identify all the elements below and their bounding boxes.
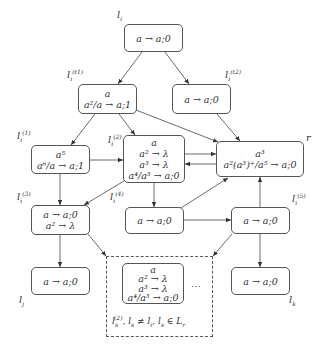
node-t2-rule: a → a;0 — [184, 94, 219, 105]
node-l1-rule: a⁶/a → a;1 — [37, 160, 84, 171]
node-l5: a → a;0 — [231, 207, 290, 234]
label-t1: li(t1) — [67, 68, 83, 82]
label-t2: li(t2) — [225, 68, 241, 82]
node-li-rule: a → a;0 — [136, 33, 171, 44]
label-l4: li(4) — [110, 190, 124, 204]
label-lj: lj — [19, 294, 24, 307]
node-l1-spike: a⁵ — [56, 149, 65, 160]
node-lj-rule: a → a;0 — [43, 276, 78, 287]
label-l1: li(1) — [17, 129, 31, 143]
node-l3: a → a;0 a² → λ — [31, 205, 90, 235]
node-l3-rule-1: a → a;0 — [43, 209, 78, 220]
node-l4-rule: a → a;0 — [137, 215, 172, 226]
edge-l3-group — [88, 234, 106, 256]
node-lj: a → a;0 — [31, 267, 90, 295]
node-lk-rule: a → a;0 — [243, 276, 278, 287]
label-l5: li(5) — [292, 192, 306, 206]
node-l5-rule: a → a;0 — [243, 215, 278, 226]
node-l4: a → a;0 — [125, 207, 184, 234]
ellipsis: … — [191, 278, 201, 289]
label-l2: li(2) — [108, 133, 122, 147]
label-li: li — [117, 9, 122, 22]
node-l2: a a² → λ a³ → λ a⁴/a³ → a;0 — [123, 135, 185, 183]
edge-l4-r — [181, 178, 228, 208]
node-l2-spike: a — [151, 137, 157, 148]
node-l2-rule-2: a³ → λ — [139, 159, 169, 170]
node-r: a³ a²(a³)⁺/a⁵ → a;0 — [216, 141, 304, 177]
label-r: r — [306, 132, 311, 143]
edge-t1-l1 — [71, 114, 95, 145]
node-ls-rule-3: a⁴/a³ → a;0 — [127, 293, 178, 303]
node-t1-rule: a²/a → a;1 — [84, 99, 131, 110]
edge-l5-group — [213, 234, 232, 256]
node-lk: a → a;0 — [231, 267, 290, 295]
edge-t2-r — [217, 114, 240, 141]
group-caption: ls(2), ls ≠ li, ls ∈ Lr — [112, 314, 185, 328]
node-l1: a⁵ a⁶/a → a;1 — [31, 145, 90, 174]
label-l3: li(3) — [17, 190, 31, 204]
node-l3-rule-2: a² → λ — [46, 220, 76, 231]
node-l2-rule-1: a² → λ — [139, 148, 169, 159]
node-li: a → a;0 — [124, 24, 183, 52]
node-t1-spike: a — [105, 88, 111, 99]
edge-t1-l2 — [119, 114, 135, 135]
node-ls: a a² → λ a³ → λ a⁴/a³ → a;0 — [122, 263, 184, 304]
label-lk: lk — [289, 294, 296, 307]
node-t2: a → a;0 — [172, 84, 231, 114]
node-r-rule: a²(a³)⁺/a⁵ → a;0 — [224, 159, 297, 170]
edge-li-t1 — [118, 52, 142, 84]
node-r-spike: a³ — [255, 148, 264, 159]
edge-li-t2 — [165, 52, 189, 84]
node-t1: a a²/a → a;1 — [78, 84, 137, 114]
node-l2-rule-3: a⁴/a³ → a;0 — [128, 170, 179, 181]
